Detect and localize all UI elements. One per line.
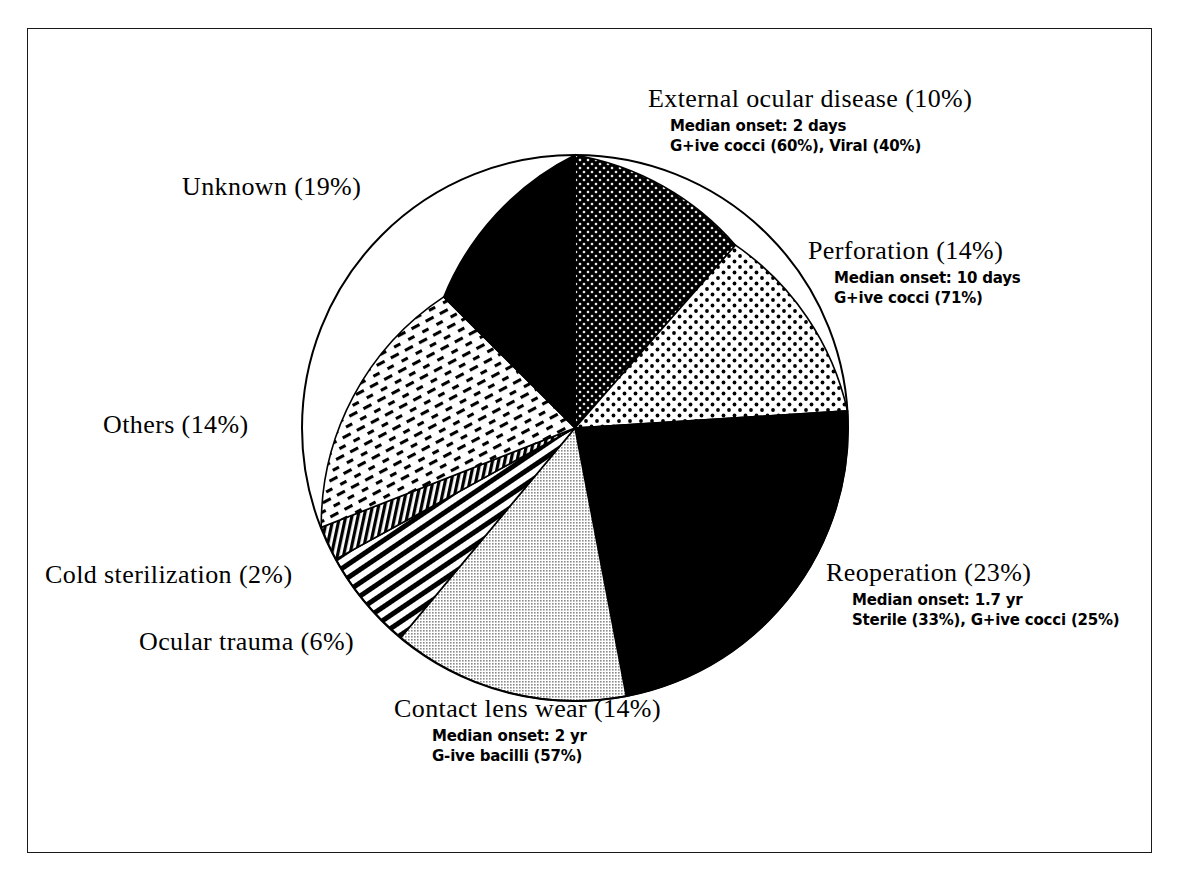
figure-container: External ocular disease (10%) Median ons… <box>0 0 1180 884</box>
slice-label-perforation: Perforation (14%) Median onset: 10 days … <box>808 236 1020 308</box>
slice-label-contact-lens-title: Contact lens wear (14%) <box>394 694 661 725</box>
slice-label-external-line2: G+ive cocci (60%), Viral (40%) <box>670 138 972 156</box>
slice-label-reoperation-line1: Median onset: 1.7 yr <box>852 592 1120 610</box>
slice-label-cold-sterilization-title: Cold sterilization (2%) <box>45 560 292 591</box>
slice-label-external-title: External ocular disease (10%) <box>648 84 972 115</box>
slice-label-contact-lens-line1: Median onset: 2 yr <box>432 728 661 746</box>
slice-label-contact-lens-line2: G-ive bacilli (57%) <box>432 748 661 766</box>
slice-label-perforation-line2: G+ive cocci (71%) <box>834 290 1020 308</box>
slice-label-unknown-title: Unknown (19%) <box>182 172 361 203</box>
slice-label-ocular-trauma: Ocular trauma (6%) <box>139 627 354 658</box>
slice-label-ocular-trauma-title: Ocular trauma (6%) <box>139 627 354 658</box>
slice-label-unknown: Unknown (19%) <box>182 172 361 203</box>
slice-label-others: Others (14%) <box>103 410 249 441</box>
slice-label-reoperation-line2: Sterile (33%), G+ive cocci (25%) <box>852 612 1120 630</box>
slice-label-perforation-line1: Median onset: 10 days <box>834 270 1020 288</box>
slice-label-perforation-title: Perforation (14%) <box>808 236 1020 267</box>
slice-label-contact-lens: Contact lens wear (14%) Median onset: 2 … <box>394 694 661 766</box>
slice-label-others-title: Others (14%) <box>103 410 249 441</box>
slice-label-external-line1: Median onset: 2 days <box>670 118 972 136</box>
slice-label-reoperation: Reoperation (23%) Median onset: 1.7 yr S… <box>826 558 1120 630</box>
slice-label-reoperation-title: Reoperation (23%) <box>826 558 1120 589</box>
slice-label-external: External ocular disease (10%) Median ons… <box>648 84 972 156</box>
slice-label-cold-sterilization: Cold sterilization (2%) <box>45 560 292 591</box>
